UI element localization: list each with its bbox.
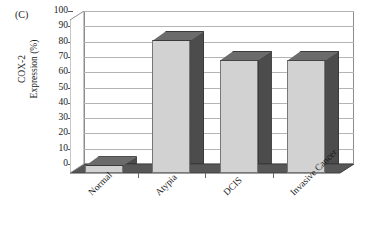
x-axis-tick-label: Invasive Cancer: [289, 147, 340, 198]
x-axis-tick-label: Atypia: [154, 172, 179, 197]
x-axis-tick-label: Normal: [86, 170, 114, 198]
x-axis-tick-labels: NormalAtypiaDCISInvasive Cancer: [0, 0, 366, 246]
x-axis-tick-label: DCIS: [221, 175, 243, 197]
